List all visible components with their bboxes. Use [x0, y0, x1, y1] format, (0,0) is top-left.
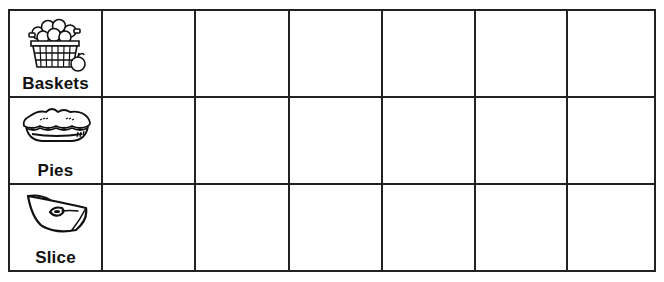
row-label-baskets: Baskets — [10, 11, 103, 98]
apple-pie-icon — [18, 104, 94, 144]
row-label-slice: Slice — [10, 185, 103, 270]
tally-cell[interactable] — [568, 185, 654, 270]
tally-cell[interactable] — [476, 185, 568, 270]
tally-cell[interactable] — [290, 185, 383, 270]
apple-basket-icon — [24, 15, 88, 73]
tally-cell[interactable] — [476, 11, 568, 98]
tally-cell[interactable] — [383, 11, 476, 98]
tally-cell[interactable] — [196, 11, 290, 98]
tally-cell[interactable] — [290, 98, 383, 185]
tally-cell[interactable] — [103, 98, 196, 185]
tally-grid: Baskets Pies — [8, 9, 656, 272]
tally-cell[interactable] — [103, 11, 196, 98]
tally-cell[interactable] — [196, 185, 290, 270]
tally-cell[interactable] — [290, 11, 383, 98]
tally-cell[interactable] — [383, 98, 476, 185]
tally-cell[interactable] — [103, 185, 196, 270]
tally-cell[interactable] — [383, 185, 476, 270]
row-label-text: Slice — [35, 249, 76, 266]
row-label-text: Pies — [38, 162, 74, 179]
row-label-pies: Pies — [10, 98, 103, 185]
apple-slice-icon — [20, 190, 92, 234]
row-label-text: Baskets — [22, 75, 89, 92]
tally-cell[interactable] — [196, 98, 290, 185]
tally-cell[interactable] — [568, 11, 654, 98]
tally-cell[interactable] — [476, 98, 568, 185]
tally-cell[interactable] — [568, 98, 654, 185]
